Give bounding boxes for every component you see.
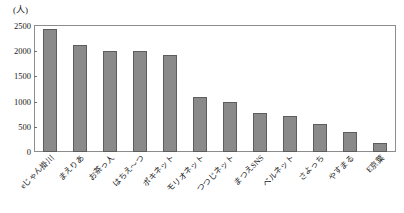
y-axis-tick-label: 0 [1, 148, 31, 157]
bar-slot [65, 26, 95, 152]
bar-slot [185, 26, 215, 152]
bar [283, 116, 297, 152]
x-label-slot: E京葉 [365, 152, 395, 213]
y-axis-tick-mark [34, 127, 37, 128]
bar [313, 124, 327, 152]
bar [73, 45, 87, 152]
bar-slot [35, 26, 65, 152]
bar [253, 113, 267, 152]
y-axis-tick-label: 2500 [1, 22, 31, 31]
x-label-slot: eじゃん掛川 [35, 152, 65, 213]
y-axis-tick-mark [34, 76, 37, 77]
bar [343, 132, 357, 152]
y-axis-tick-mark [34, 102, 37, 103]
y-axis-tick-label: 2000 [1, 47, 31, 56]
x-label-slot: ベルネット [275, 152, 305, 213]
bar-slot [335, 26, 365, 152]
bar [163, 55, 177, 152]
bar-slot [245, 26, 275, 152]
bar-slot [365, 26, 395, 152]
bar-slot [155, 26, 185, 152]
y-axis-tick-mark [34, 51, 37, 52]
x-label-slot: やすまる [335, 152, 365, 213]
bar-slot [95, 26, 125, 152]
bar-slot [275, 26, 305, 152]
bar [373, 143, 387, 152]
bar [223, 102, 237, 152]
x-label-slot: まえりあ [65, 152, 95, 213]
bar-chart: (人) 05001000150020002500 eじゃん掛川まえりあお茶っ人は… [0, 0, 404, 213]
bar [103, 51, 117, 152]
y-axis-tick-label: 500 [1, 123, 31, 132]
bar-slot [125, 26, 155, 152]
bar-slot [305, 26, 335, 152]
y-axis-tick-label: 1500 [1, 72, 31, 81]
bars-container [35, 26, 395, 152]
x-axis-tick-label: E京葉 [365, 154, 386, 175]
x-axis-tick-labels: eじゃん掛川まえりあお茶っ人はちえ〜つポキネットモリオネットつつじネットまつえS… [35, 152, 395, 213]
bar [193, 97, 207, 152]
bar [43, 29, 57, 152]
y-axis-tick-label: 1000 [1, 97, 31, 106]
x-label-slot: さよっち [305, 152, 335, 213]
bar-slot [215, 26, 245, 152]
bar [133, 51, 147, 152]
